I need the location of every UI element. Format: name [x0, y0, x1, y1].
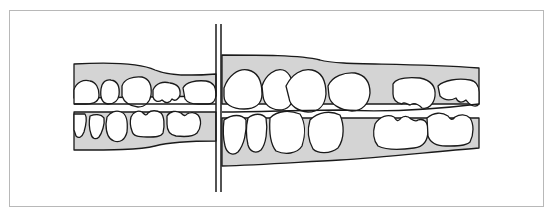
left-arch — [74, 63, 216, 150]
dental-diagram — [0, 0, 554, 216]
midline-divider — [216, 24, 221, 192]
right-arch — [222, 55, 479, 166]
